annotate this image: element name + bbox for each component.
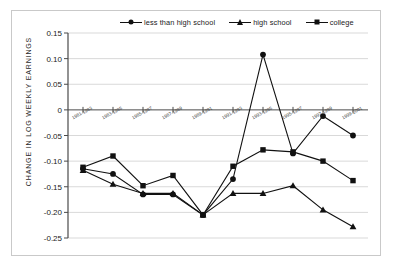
data-point-square[interactable] xyxy=(290,149,295,154)
triangle-marker-icon xyxy=(229,17,251,27)
chart-legend: less than high school high school colleg… xyxy=(120,15,354,29)
square-marker-icon xyxy=(306,17,328,27)
y-tick-label: -0.20 xyxy=(28,208,62,217)
data-point-circle[interactable] xyxy=(260,52,266,58)
data-point-square[interactable] xyxy=(110,153,115,158)
data-point-square[interactable] xyxy=(170,173,175,178)
y-tick-label: 0.10 xyxy=(28,54,62,63)
y-tick-label: -0.05 xyxy=(28,131,62,140)
data-point-triangle[interactable] xyxy=(350,223,357,229)
data-point-square[interactable] xyxy=(140,183,145,188)
data-point-square[interactable] xyxy=(320,158,325,163)
legend-item-college[interactable]: college xyxy=(306,17,354,27)
series-college xyxy=(80,147,355,217)
data-point-square[interactable] xyxy=(80,165,85,170)
y-axis-tick-labels: 0.150.100.050-0.05-0.10-0.15-0.20-0.25 xyxy=(24,33,62,238)
legend-label: less than high school xyxy=(144,18,215,27)
data-point-square[interactable] xyxy=(200,212,205,217)
x-axis-tick-labels: 1981-19831983-19851985-19871987-19891989… xyxy=(68,116,368,140)
y-tick-label: -0.25 xyxy=(28,234,62,243)
legend-item-less-than-high-school[interactable]: less than high school xyxy=(120,17,215,27)
y-tick-label: 0.05 xyxy=(28,80,62,89)
circle-marker-icon xyxy=(120,17,142,27)
data-point-triangle[interactable] xyxy=(290,182,297,188)
data-point-square[interactable] xyxy=(260,147,265,152)
data-point-square[interactable] xyxy=(350,178,355,183)
data-point-circle[interactable] xyxy=(230,176,236,182)
chart-figure: less than high school high school colleg… xyxy=(0,0,393,268)
legend-label: college xyxy=(330,18,354,27)
series-line xyxy=(83,150,353,215)
y-tick-label: 0.15 xyxy=(28,29,62,38)
series-line xyxy=(83,170,353,226)
y-tick-label: 0 xyxy=(28,105,62,114)
data-point-circle[interactable] xyxy=(110,171,116,177)
legend-label: high school xyxy=(253,18,292,27)
y-tick-label: -0.10 xyxy=(28,157,62,166)
series-high-school xyxy=(80,167,357,229)
data-point-square[interactable] xyxy=(230,164,235,169)
y-tick-label: -0.15 xyxy=(28,182,62,191)
data-point-triangle[interactable] xyxy=(110,181,117,187)
legend-item-high-school[interactable]: high school xyxy=(229,17,292,27)
